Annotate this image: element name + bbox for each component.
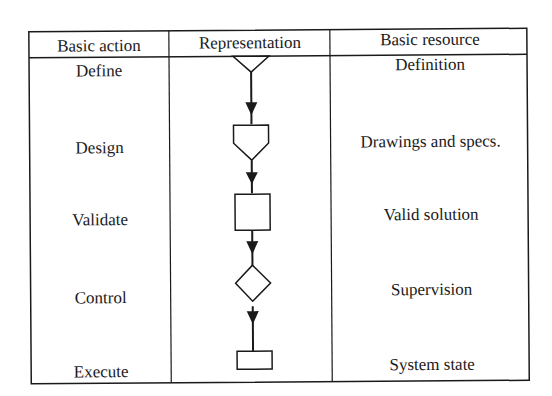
header-basic-resource: Basic resource <box>380 30 480 51</box>
resource-system-state: System state <box>389 355 475 376</box>
arrowhead-icon <box>245 102 257 115</box>
resource-supervision: Supervision <box>391 280 472 301</box>
header-basic-action: Basic action <box>57 36 141 57</box>
action-define: Define <box>76 61 122 81</box>
resource-drawings: Drawings and specs. <box>360 131 500 152</box>
arrowhead-icon <box>247 311 259 324</box>
pentagon-down-icon <box>233 125 268 160</box>
arrowhead-icon <box>246 241 258 254</box>
diamond-icon <box>235 265 270 301</box>
inverted-triangle-icon <box>233 56 269 72</box>
action-design: Design <box>75 138 123 158</box>
header-representation: Representation <box>199 33 301 54</box>
action-control: Control <box>75 288 127 308</box>
square-icon <box>235 194 270 230</box>
flat-rectangle-icon <box>237 351 272 369</box>
action-validate: Validate <box>72 210 128 230</box>
arrowhead-icon <box>246 172 258 184</box>
resource-valid-solution: Valid solution <box>384 205 479 226</box>
flow-diagram <box>233 56 272 369</box>
action-execute: Execute <box>74 362 129 382</box>
table-frame <box>0 0 552 396</box>
process-table: Basic action Representation Basic resour… <box>0 0 552 396</box>
resource-definition: Definition <box>395 55 465 75</box>
